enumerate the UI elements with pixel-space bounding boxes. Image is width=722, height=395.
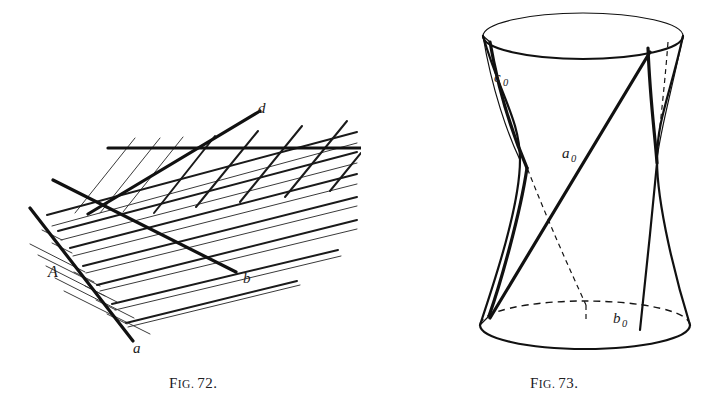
bottom-rim-front <box>480 325 690 349</box>
generator-b0-upper <box>648 48 657 163</box>
label-a0-base: a <box>562 145 570 161</box>
label-d: d <box>258 100 266 116</box>
figure-73-drawing: c 0 a 0 b 0 <box>361 0 722 395</box>
caption-73-smallcaps: IG. <box>539 378 556 390</box>
label-b: b <box>243 270 251 286</box>
label-point-A: A <box>47 263 58 280</box>
label-a: a <box>133 340 141 356</box>
figure-73-panel: c 0 a 0 b 0 FIG.73. <box>361 0 722 395</box>
label-b0-sub: 0 <box>622 318 628 329</box>
label-c0: c 0 <box>494 69 509 88</box>
line-a <box>30 208 133 341</box>
caption-72-prefix: F <box>169 375 178 391</box>
top-rim-back <box>483 13 683 36</box>
figure-page: d c b a A FIG.72. <box>0 0 722 395</box>
generator-c0-lower <box>489 168 527 316</box>
silhouette-right-companion <box>657 36 683 160</box>
generator-b0-lower <box>640 163 657 330</box>
caption-72-smallcaps: IG. <box>178 378 195 390</box>
figure-72-caption: FIG.72. <box>0 358 361 395</box>
top-rim-front <box>483 36 683 59</box>
medium-generator-family <box>47 132 357 323</box>
figure-72-panel: d c b a A FIG.72. <box>0 0 361 395</box>
bottom-rim-back-hidden <box>480 301 690 325</box>
label-c0-sub: 0 <box>503 77 509 88</box>
generator-a0 <box>490 52 650 318</box>
label-a0: a 0 <box>562 145 577 164</box>
label-b0-base: b <box>613 310 621 326</box>
caption-72-number: 72. <box>197 375 217 391</box>
caption-73-number: 73. <box>558 375 578 391</box>
caption-73-prefix: F <box>530 375 539 391</box>
figure-72-drawing: d c b a A <box>0 0 361 395</box>
label-b0: b 0 <box>613 310 628 329</box>
figure-73-caption: FIG.73. <box>361 358 722 395</box>
line-d <box>88 111 260 214</box>
label-a0-sub: 0 <box>571 153 577 164</box>
label-c0-base: c <box>494 69 501 85</box>
